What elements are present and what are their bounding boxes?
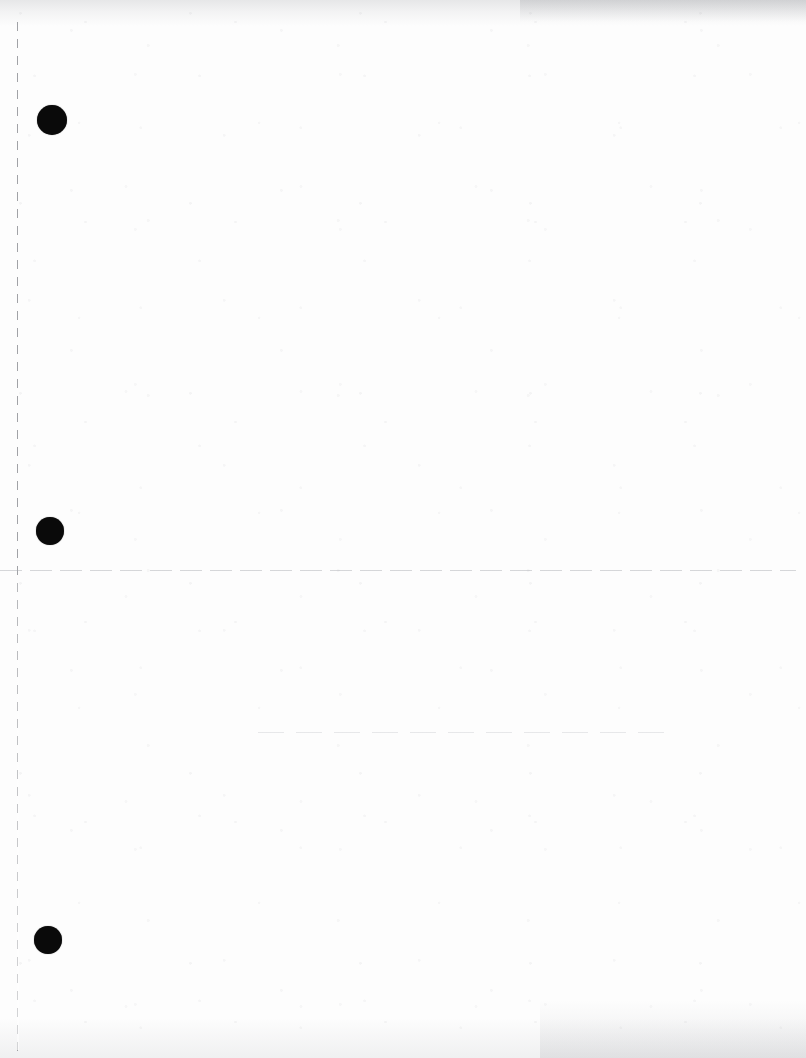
margin-rule-vertical: [17, 22, 18, 1052]
punch-dot-bottom: [34, 926, 62, 954]
paper-background: [0, 0, 806, 1058]
scanned-page: [0, 0, 806, 1058]
punch-dot-top: [37, 105, 67, 135]
punch-dot-middle: [36, 517, 64, 545]
horizontal-rule-primary: [0, 570, 796, 571]
horizontal-rule-secondary: [258, 732, 672, 733]
